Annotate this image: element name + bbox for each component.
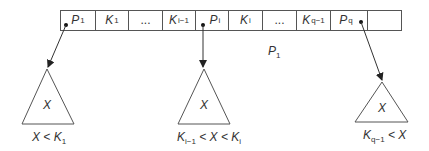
- cell-sub: i: [219, 16, 221, 25]
- cell-main: K: [302, 13, 310, 27]
- subtree-2-label: X: [200, 98, 208, 112]
- node-label-sub: 1: [276, 51, 280, 60]
- subtree-3-label: X: [378, 101, 386, 115]
- condition-text: < X: [385, 128, 407, 142]
- cell-main: P: [210, 13, 218, 27]
- subtree-1-label: X: [43, 98, 51, 112]
- subtree-triangle-2: [178, 69, 230, 124]
- condition-sub: i: [239, 137, 241, 146]
- cell-main: ...: [140, 13, 150, 27]
- cell-main: P: [339, 13, 347, 27]
- node-cell-pi: Pi: [196, 10, 228, 30]
- cell-sub: i: [249, 16, 251, 25]
- cell-main: P: [71, 13, 79, 27]
- subtree-triangle-1: [22, 69, 74, 124]
- cell-sub: i−1: [178, 16, 189, 25]
- condition-sub: q−1: [371, 135, 385, 144]
- cell-sub: 1: [114, 16, 118, 25]
- node-cell-empty: [368, 10, 401, 30]
- condition-text: K: [177, 130, 185, 144]
- condition-text: X < K: [32, 130, 62, 144]
- node-cell-k1: K1: [96, 10, 128, 30]
- node-cell-p1: P1: [61, 10, 95, 30]
- node-label: P1: [268, 44, 280, 60]
- node-cell-ki-1: Ki−1: [163, 10, 195, 30]
- cell-main: ...: [274, 13, 284, 27]
- condition-text: K: [363, 128, 371, 142]
- node-cell-ellipsis-2: ...: [263, 10, 296, 30]
- condition-sub: i−1: [185, 137, 196, 146]
- condition-sub: 1: [62, 137, 66, 146]
- cell-sub: q: [348, 16, 352, 25]
- node-cell-pq: Pq: [331, 10, 361, 30]
- node-label-main: P: [268, 44, 276, 58]
- condition-text: < X < K: [196, 130, 239, 144]
- arrow-p1: [48, 25, 66, 67]
- cell-main: K: [169, 13, 177, 27]
- node-cell-kq-1: Kq−1: [297, 10, 330, 30]
- subtree-1-condition: X < K1: [32, 130, 66, 146]
- cell-main: K: [240, 13, 248, 27]
- cell-sub: 1: [80, 16, 84, 25]
- cell-main: K: [105, 13, 113, 27]
- node-cell-ellipsis-1: ...: [129, 10, 162, 30]
- subtree-2-condition: Ki−1 < X < Ki: [177, 130, 241, 146]
- cell-sub: q−1: [311, 16, 325, 25]
- node-cell-ki: Ki: [229, 10, 262, 30]
- subtree-3-condition: Kq−1 < X: [363, 128, 406, 144]
